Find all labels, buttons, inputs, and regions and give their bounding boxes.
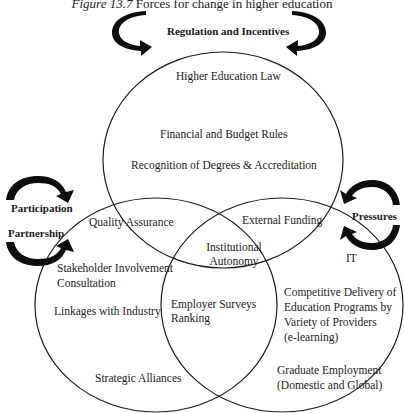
right-item-block: Graduate Employment (Domestic and Global…	[277, 363, 382, 393]
curved-arrow-icon	[6, 176, 74, 203]
overlap-all-three: Institutional Autonomy	[196, 240, 272, 268]
force-label-participation: Participation	[11, 201, 73, 215]
overlap-left-right: Employer Surveys Ranking	[171, 297, 256, 325]
curved-arrow-icon	[112, 11, 152, 56]
right-item: IT	[346, 251, 357, 265]
overlap-all-three-line: Autonomy	[196, 254, 272, 268]
overlap-top-left: Quality Assurance	[89, 215, 174, 229]
right-item: Variety of Providers	[284, 315, 396, 330]
right-item: Competitive Delivery of	[284, 285, 396, 300]
top-item: Financial and Budget Rules	[160, 127, 287, 141]
left-item: Stakeholder Involvement	[57, 261, 173, 275]
left-item: Linkages with Industry	[54, 304, 161, 318]
curved-arrow-icon	[340, 225, 400, 250]
overlap-left-right-line: Employer Surveys	[171, 297, 256, 311]
right-item: Education Programs by	[284, 300, 396, 315]
curved-arrow-icon	[286, 11, 326, 56]
overlap-all-three-line: Institutional	[196, 240, 272, 254]
overlap-left-right-line: Ranking	[171, 311, 256, 325]
force-label-pressures: Pressures	[352, 209, 397, 223]
left-item: Strategic Alliances	[95, 371, 182, 385]
left-item: Consultation	[57, 276, 116, 290]
right-item: Graduate Employment	[277, 363, 382, 378]
curved-arrow-icon	[340, 180, 400, 205]
right-item: (Domestic and Global)	[277, 378, 382, 393]
overlap-top-right: External Funding	[242, 213, 322, 227]
force-label-partnership: Partnership	[8, 226, 64, 240]
force-label-regulation: Regulation and Incentives	[167, 24, 289, 38]
top-item: Higher Education Law	[176, 69, 281, 83]
top-item: Recognition of Degrees & Accreditation	[131, 158, 317, 172]
right-item: (e-learning)	[284, 330, 396, 345]
right-item-block: Competitive Delivery of Education Progra…	[284, 285, 396, 345]
